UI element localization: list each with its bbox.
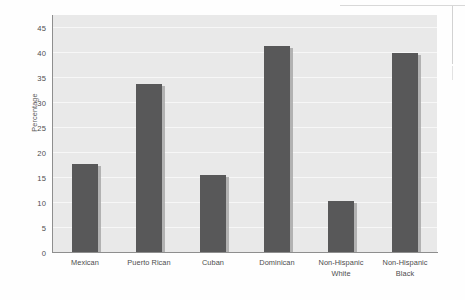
bar-chart-figure: Percentage 051015202530354045 MexicanPue… (0, 0, 465, 300)
bar[interactable] (200, 175, 226, 253)
bar-slot (72, 15, 98, 253)
bar[interactable] (264, 46, 290, 253)
x-tick-label-line: Black (365, 269, 445, 280)
y-tick-label: 10 (26, 198, 46, 207)
bar-slot (328, 15, 354, 253)
bar[interactable] (392, 53, 418, 253)
scan-edge-top-line (340, 5, 465, 6)
scan-edge-right-line (452, 6, 453, 64)
y-tick-label: 15 (26, 173, 46, 182)
bar[interactable] (136, 84, 162, 253)
x-axis-tick-labels: MexicanPuerto RicanCubanDominicanNon-His… (53, 258, 437, 298)
y-axis-title: Percentage (30, 73, 39, 153)
y-tick-label: 0 (26, 249, 46, 258)
x-tick-label-line: Non-Hispanic (365, 258, 445, 269)
plot-area (53, 15, 437, 253)
bar-slot (136, 15, 162, 253)
x-tick-label: Non-HispanicBlack (365, 258, 445, 279)
bar-slot (392, 15, 418, 253)
bar-slot (200, 15, 226, 253)
bar[interactable] (72, 164, 98, 253)
y-tick-label: 45 (26, 23, 46, 32)
plot-area-wrapper (53, 15, 437, 253)
y-tick-label: 40 (26, 48, 46, 57)
bar-slot (264, 15, 290, 253)
y-axis-line (52, 15, 53, 253)
x-axis-line (52, 252, 438, 253)
bar[interactable] (328, 201, 354, 253)
bars-group (53, 15, 437, 253)
scan-edge-right-line-lower (452, 66, 453, 80)
y-tick-label: 5 (26, 223, 46, 232)
